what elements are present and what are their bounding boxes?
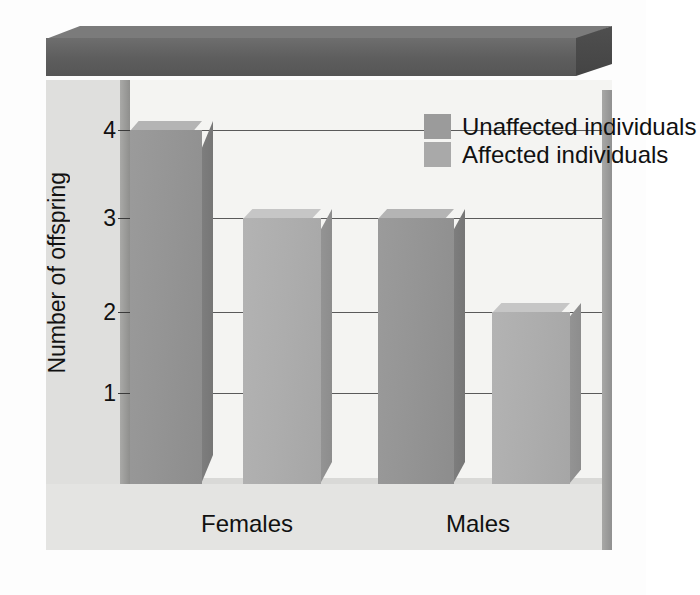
- legend-item-unaffected[interactable]: Unaffected individuals: [424, 114, 696, 139]
- y-axis-title: Number of offspring: [44, 172, 74, 374]
- x-category-label-females: Females: [201, 510, 293, 538]
- x-category-label-males: Males: [446, 510, 510, 538]
- bar-front-face: [492, 312, 570, 484]
- chart-left-wall-edge: [120, 80, 130, 484]
- title-bar-front-face: [46, 38, 576, 76]
- legend-label: Unaffected individuals: [462, 115, 696, 139]
- title-bar-3d: [46, 26, 612, 68]
- bar-males-affected[interactable]: [492, 312, 570, 484]
- y-tick-label-1: 1: [103, 382, 116, 405]
- bar-males-unaffected[interactable]: [378, 218, 454, 484]
- bar-side-face: [453, 209, 465, 484]
- chart-legend: Unaffected individuals Affected individu…: [420, 112, 700, 172]
- plot-area: 4 3 2 1: [130, 80, 602, 484]
- bar-front-face: [243, 218, 321, 484]
- legend-swatch-icon: [424, 114, 451, 139]
- legend-item-affected[interactable]: Affected individuals: [424, 142, 696, 167]
- bar-side-face: [320, 209, 332, 484]
- tick-mark-1: [118, 393, 130, 394]
- bar-females-unaffected[interactable]: [130, 130, 202, 484]
- y-tick-label-3: 3: [103, 207, 116, 230]
- legend-label: Affected individuals: [462, 143, 668, 167]
- bar-side-face: [201, 121, 213, 484]
- chart-floor: [46, 484, 612, 550]
- legend-swatch-icon: [424, 142, 451, 167]
- y-tick-label-2: 2: [103, 301, 116, 324]
- tick-mark-3: [118, 218, 130, 219]
- chart-3d-block: Number of offspring 4 3 2 1: [46, 80, 612, 550]
- bar-side-face: [569, 303, 581, 484]
- tick-mark-2: [118, 312, 130, 313]
- y-tick-label-4: 4: [103, 119, 116, 142]
- bar-front-face: [130, 130, 202, 484]
- tick-mark-4: [118, 130, 130, 131]
- bar-females-affected[interactable]: [243, 218, 321, 484]
- bar-front-face: [378, 218, 454, 484]
